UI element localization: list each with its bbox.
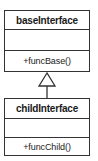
operation: +funcBase(): [23, 56, 71, 66]
class-name-compartment: childInterface: [5, 99, 89, 119]
class-box-childInterface: childInterface +funcChild(): [4, 98, 90, 156]
operations-compartment: +funcChild(): [5, 138, 89, 155]
attributes-compartment: [5, 119, 89, 138]
class-box-baseInterface: baseInterface +funcBase(): [4, 10, 90, 72]
class-name: childInterface: [16, 103, 78, 114]
hollow-triangle-arrowhead-icon: [39, 73, 55, 86]
operation: +funcChild(): [23, 142, 71, 152]
operations-compartment: +funcBase(): [5, 51, 89, 71]
attributes-compartment: [5, 30, 89, 51]
class-name-compartment: baseInterface: [5, 11, 89, 30]
class-name: baseInterface: [16, 15, 78, 26]
